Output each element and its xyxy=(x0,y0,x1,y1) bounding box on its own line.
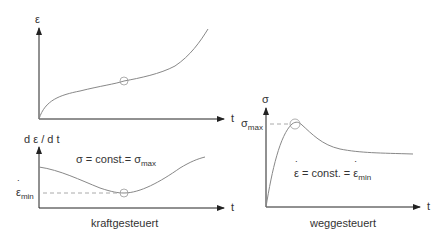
strain-axis-label: ε xyxy=(35,14,40,25)
stress-plot xyxy=(266,108,420,207)
time-axis-label-right: t xyxy=(427,201,430,212)
creep-strain-plot xyxy=(39,28,224,119)
force-controlled-caption: kraftgesteuert xyxy=(91,218,158,229)
constant-strain-rate-annotation: ε = const. = εmin xyxy=(294,168,371,179)
strain-rate-axis-label: d ε / d t xyxy=(24,134,59,145)
time-axis-label-top: t xyxy=(231,113,234,124)
stress-axis-label: σ xyxy=(262,94,269,105)
max-stress-label: σmax xyxy=(241,118,263,129)
constant-stress-annotation: σ = const.= σmax xyxy=(76,154,156,165)
creep-curve xyxy=(39,29,208,119)
stress-curve xyxy=(266,122,413,207)
diagram-canvas xyxy=(0,0,443,242)
displacement-controlled-caption: weggesteuert xyxy=(310,218,376,229)
time-axis-label-bottom: t xyxy=(231,202,234,213)
min-strain-rate-label: εmin xyxy=(16,187,34,198)
